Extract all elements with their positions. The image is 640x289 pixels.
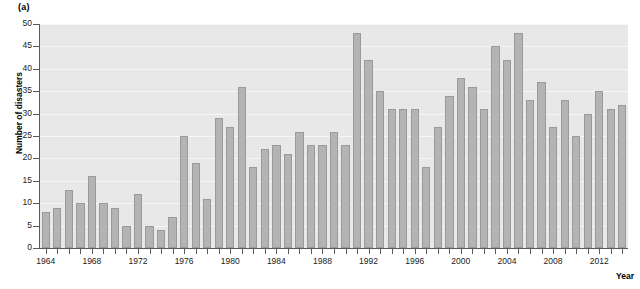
x-tick — [565, 249, 566, 254]
x-tick — [461, 249, 462, 254]
y-tick-label: 20 — [8, 152, 32, 162]
x-tick-label: 1980 — [213, 256, 247, 266]
chart-figure: (a) Number of disasters Year 05101520253… — [0, 0, 640, 289]
y-axis-tick-labels: 05101520253035404550 — [0, 0, 640, 289]
x-tick-label: 1976 — [167, 256, 201, 266]
x-tick — [472, 249, 473, 254]
x-tick — [507, 249, 508, 254]
x-tick — [253, 249, 254, 254]
y-tick-label: 10 — [8, 197, 32, 207]
x-tick-label: 1984 — [259, 256, 293, 266]
x-tick — [57, 249, 58, 254]
x-tick — [403, 249, 404, 254]
x-tick — [299, 249, 300, 254]
x-tick — [426, 249, 427, 254]
x-tick — [69, 249, 70, 254]
x-tick-label: 1996 — [398, 256, 432, 266]
x-tick — [103, 249, 104, 254]
x-tick — [599, 249, 600, 254]
x-tick — [138, 249, 139, 254]
x-tick — [311, 249, 312, 254]
x-tick — [392, 249, 393, 254]
x-tick — [219, 249, 220, 254]
x-tick — [553, 249, 554, 254]
x-tick — [588, 249, 589, 254]
x-tick — [80, 249, 81, 254]
y-tick-label: 45 — [8, 40, 32, 50]
x-tick-label: 2004 — [490, 256, 524, 266]
x-tick-label: 2012 — [582, 256, 616, 266]
x-tick — [357, 249, 358, 254]
y-tick-label: 40 — [8, 63, 32, 73]
x-tick — [530, 249, 531, 254]
x-tick — [150, 249, 151, 254]
x-tick-label: 1992 — [352, 256, 386, 266]
y-tick-label: 0 — [8, 242, 32, 252]
x-tick — [322, 249, 323, 254]
x-tick — [518, 249, 519, 254]
y-tick-label: 30 — [8, 108, 32, 118]
x-tick — [542, 249, 543, 254]
x-tick — [346, 249, 347, 254]
x-tick — [622, 249, 623, 254]
x-tick — [276, 249, 277, 254]
y-tick-label: 35 — [8, 85, 32, 95]
x-tick — [369, 249, 370, 254]
x-tick — [173, 249, 174, 254]
x-tick — [495, 249, 496, 254]
x-tick — [196, 249, 197, 254]
x-tick — [334, 249, 335, 254]
x-tick — [288, 249, 289, 254]
x-tick — [230, 249, 231, 254]
y-tick-label: 50 — [8, 18, 32, 28]
x-tick — [115, 249, 116, 254]
x-tick — [415, 249, 416, 254]
x-tick — [484, 249, 485, 254]
x-tick — [161, 249, 162, 254]
x-tick-label: 2000 — [444, 256, 478, 266]
x-tick — [265, 249, 266, 254]
x-tick — [242, 249, 243, 254]
x-tick-label: 1988 — [305, 256, 339, 266]
x-tick — [611, 249, 612, 254]
x-tick-label: 1968 — [75, 256, 109, 266]
y-tick-label: 15 — [8, 175, 32, 185]
x-tick — [184, 249, 185, 254]
x-tick — [126, 249, 127, 254]
x-tick — [92, 249, 93, 254]
y-tick-label: 25 — [8, 130, 32, 140]
x-tick — [449, 249, 450, 254]
x-tick-label: 1972 — [121, 256, 155, 266]
x-tick — [380, 249, 381, 254]
x-tick — [576, 249, 577, 254]
x-tick-label: 2008 — [536, 256, 570, 266]
y-tick-label: 5 — [8, 220, 32, 230]
x-tick — [207, 249, 208, 254]
x-tick — [46, 249, 47, 254]
x-tick-label: 1964 — [29, 256, 63, 266]
x-tick — [438, 249, 439, 254]
